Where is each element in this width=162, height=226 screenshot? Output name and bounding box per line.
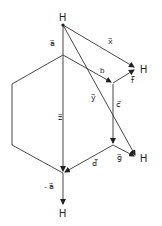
- label-z: z⃗: [58, 113, 62, 122]
- atom-dot-top: [61, 23, 64, 26]
- label-f: f⃗: [131, 75, 135, 85]
- label-y: y⃗: [91, 93, 96, 102]
- label-neg-a: - a⃗: [44, 182, 54, 191]
- atom-h-right-upper: H: [140, 64, 147, 75]
- label-g: g⃗: [117, 153, 122, 162]
- label-d: d⃗: [92, 158, 98, 168]
- vector-y: [63, 25, 135, 155]
- atom-h-right-lower: H: [140, 153, 147, 164]
- atom-h-bottom: H: [59, 208, 66, 219]
- label-x: x⃗: [108, 37, 113, 46]
- vector-diagram: H H H H a⃗ b c⃗ d⃗ f⃗ g⃗ x⃗ y⃗ z⃗ - a⃗: [0, 0, 162, 226]
- hexagon-ring: [12, 55, 63, 173]
- label-c: c⃗: [116, 100, 121, 109]
- label-b: b: [100, 66, 105, 75]
- vector-d: [65, 145, 113, 172]
- atom-h-top: H: [59, 12, 66, 23]
- label-a: a⃗: [50, 39, 55, 48]
